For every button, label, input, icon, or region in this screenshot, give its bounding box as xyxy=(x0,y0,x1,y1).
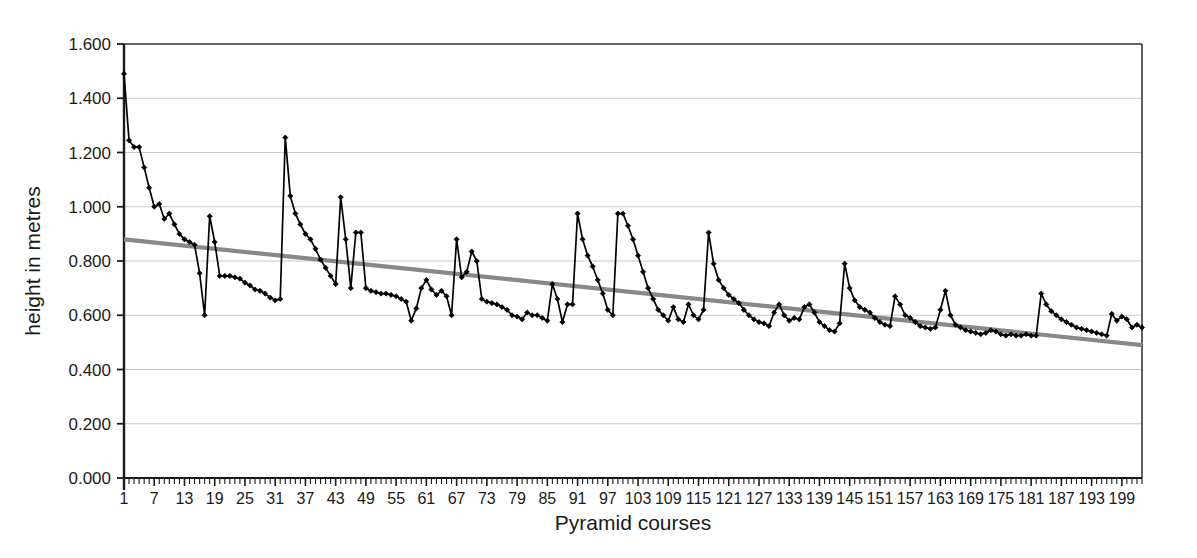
x-axis-tick-label: 13 xyxy=(176,490,194,507)
y-axis-tick-label: 0.200 xyxy=(68,415,111,434)
x-axis-tick-label: 127 xyxy=(746,490,773,507)
chart-container: 0.0000.2000.4000.6000.8001.0001.2001.400… xyxy=(0,0,1197,558)
x-axis-tick-label: 37 xyxy=(297,490,315,507)
y-axis-tick-label: 0.000 xyxy=(68,469,111,488)
x-axis-tick-label: 115 xyxy=(686,490,712,507)
x-axis-tick-label: 199 xyxy=(1108,490,1135,507)
y-axis-tick-label: 1.000 xyxy=(68,198,111,217)
y-axis-tick-label: 0.600 xyxy=(68,306,111,325)
x-axis-tick-label: 19 xyxy=(206,490,224,507)
x-axis-tick-label: 175 xyxy=(988,490,1015,507)
y-axis-title: height in metres xyxy=(21,186,44,335)
x-axis-tick-label: 73 xyxy=(478,490,496,507)
y-axis-tick-label: 1.600 xyxy=(68,35,111,54)
x-axis-tick-label: 97 xyxy=(599,490,617,507)
x-axis-tick-label: 79 xyxy=(508,490,526,507)
y-axis-tick-label: 0.400 xyxy=(68,361,111,380)
x-axis-title: Pyramid courses xyxy=(555,511,711,534)
x-axis-tick-label: 103 xyxy=(625,490,652,507)
x-axis-tick-label: 157 xyxy=(897,490,924,507)
x-axis-tick-label: 163 xyxy=(927,490,954,507)
pyramid-course-heights-chart: 0.0000.2000.4000.6000.8001.0001.2001.400… xyxy=(0,0,1197,558)
y-axis-tick-label: 0.800 xyxy=(68,252,111,271)
x-axis-tick-label: 67 xyxy=(448,490,466,507)
x-axis-tick-label: 151 xyxy=(867,490,894,507)
x-axis-tick-label: 7 xyxy=(150,490,159,507)
x-axis-tick-label: 193 xyxy=(1078,490,1105,507)
x-axis-tick-label: 145 xyxy=(836,490,863,507)
x-axis-tick-label: 181 xyxy=(1018,490,1045,507)
x-axis-tick-label: 49 xyxy=(357,490,375,507)
x-axis-tick-label: 121 xyxy=(715,490,742,507)
x-axis-tick-label: 1 xyxy=(120,490,129,507)
x-axis-tick-label: 85 xyxy=(538,490,556,507)
x-axis-tick-label: 31 xyxy=(266,490,284,507)
y-axis-tick-label: 1.200 xyxy=(68,144,111,163)
x-axis-tick-label: 43 xyxy=(327,490,345,507)
x-axis-tick-label: 109 xyxy=(655,490,682,507)
x-axis-tick-label: 139 xyxy=(806,490,833,507)
x-axis-tick-label: 91 xyxy=(569,490,587,507)
x-axis-tick-label: 169 xyxy=(957,490,984,507)
x-axis-tick-label: 55 xyxy=(387,490,405,507)
x-axis-tick-label: 133 xyxy=(776,490,803,507)
x-axis-tick-label: 25 xyxy=(236,490,254,507)
x-axis-tick-label: 187 xyxy=(1048,490,1075,507)
x-axis-tick-label: 61 xyxy=(417,490,435,507)
y-axis-tick-label: 1.400 xyxy=(68,89,111,108)
